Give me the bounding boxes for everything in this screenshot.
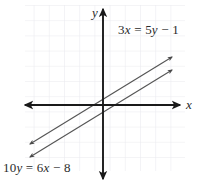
equation-top-rhs-variable: y <box>152 22 158 37</box>
equation-top-lhs-coefficient: 3 <box>118 22 125 37</box>
x-axis-label: x <box>186 97 192 113</box>
equation-bottom-rhs-constant: 8 <box>64 160 71 175</box>
equation-bottom-rhs-coefficient: 6 <box>37 160 44 175</box>
equation-top-rhs-coefficient: 5 <box>145 22 152 37</box>
equation-bottom-rhs-operator: − <box>53 160 61 175</box>
equation-bottom-lhs-coefficient: 10 <box>3 160 16 175</box>
equation-top-relation: = <box>134 22 142 37</box>
equation-label-top: 3x = 5y − 1 <box>118 22 179 38</box>
equation-top-rhs-constant: 1 <box>172 22 179 37</box>
equation-top-rhs-operator: − <box>161 22 169 37</box>
y-axis-label: y <box>92 5 98 21</box>
equation-bottom-lhs-variable: y <box>16 160 22 175</box>
coordinate-plane-figure: y x 3x = 5y − 1 10y = 6x − 8 <box>0 0 205 190</box>
equation-bottom-relation: = <box>26 160 34 175</box>
equation-top-lhs-variable: x <box>125 22 131 37</box>
equation-bottom-rhs-variable: x <box>44 160 50 175</box>
equation-label-bottom: 10y = 6x − 8 <box>3 160 71 176</box>
